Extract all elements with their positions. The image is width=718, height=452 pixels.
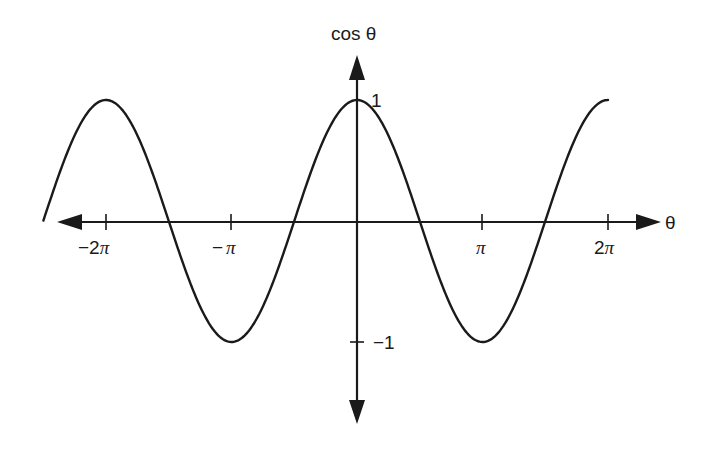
y-tick-label-pos1: 1 bbox=[371, 90, 382, 111]
x-axis-left-arrow-icon bbox=[57, 214, 82, 230]
cosine-chart: cos θ θ −2π −π π 2π 1 −1 bbox=[0, 0, 718, 452]
y-axis bbox=[349, 55, 365, 424]
y-axis-down-arrow-icon bbox=[349, 400, 365, 424]
x-axis bbox=[57, 214, 661, 230]
x-tick-label-pi: π bbox=[476, 237, 486, 258]
y-tick-label-neg1: −1 bbox=[373, 332, 395, 353]
y-axis-label: cos θ bbox=[331, 23, 376, 44]
x-axis-right-arrow-icon bbox=[636, 214, 661, 230]
x-axis-label: θ bbox=[665, 212, 676, 233]
y-axis-up-arrow-icon bbox=[349, 55, 365, 80]
x-tick-label-negpi: −π bbox=[212, 237, 236, 258]
x-tick-label-neg2pi: −2π bbox=[78, 237, 110, 258]
x-tick-label-2pi: 2π bbox=[594, 237, 615, 258]
